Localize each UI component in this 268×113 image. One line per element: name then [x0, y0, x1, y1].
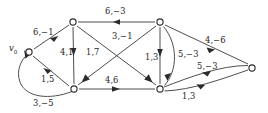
node-d[interactable]	[157, 86, 163, 92]
node-v0[interactable]	[26, 49, 32, 55]
node-b[interactable]	[157, 19, 163, 25]
node-e[interactable]	[249, 65, 255, 71]
edge-label-c-to-d: 4,6	[105, 76, 119, 84]
arrowhead-b-to-a	[113, 19, 120, 25]
graph-figure: v0 6,−1 6,−3 4,1 1,7 3,−1 1,3 5,−3 4,−6 …	[0, 0, 268, 113]
edge-label-a-to-c: 4,1	[60, 48, 74, 56]
node-a[interactable]	[70, 19, 76, 25]
edge-label-a-to-d: 1,7	[86, 48, 100, 56]
node-label-v0: v0	[9, 44, 17, 55]
edge-label-b-to-a: 6,−3	[105, 7, 126, 15]
edge-label-a-to-v0: 6,−1	[33, 28, 54, 36]
edge-label-c-to-v0-arc: 3,−5	[33, 99, 54, 107]
arrowhead-a-to-d	[144, 74, 152, 82]
arrowhead-d-to-e-arc	[196, 84, 205, 89]
graph-canvas	[0, 0, 268, 113]
arrowhead-e-to-d-arc	[202, 71, 211, 76]
edge-label-v0-to-c: 1,5	[41, 75, 55, 83]
arrowhead-b-to-c	[82, 74, 90, 82]
edge-label-b-to-c: 3,−1	[112, 32, 133, 40]
edge-label-b-to-e: 4,−6	[205, 36, 226, 44]
edge-label-e-to-d-arc: 5,−3	[197, 62, 218, 70]
node-c[interactable]	[71, 86, 77, 92]
arrowhead-c-to-d	[112, 86, 120, 92]
edge-label-d-to-e-arc: 1,3	[182, 92, 196, 100]
edge-label-b-to-d-arc: 5,−3	[178, 50, 199, 58]
edge-label-b-to-d: 1,3	[145, 53, 159, 61]
